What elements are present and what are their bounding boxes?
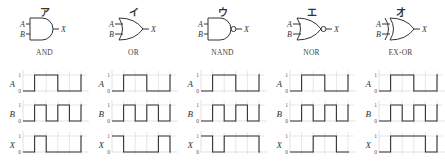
signal-label: A — [187, 79, 194, 89]
signal-label: X — [9, 140, 16, 150]
waveform-trace — [201, 136, 260, 152]
panel-u: ウ ABX NAND 10A10B10X — [178, 0, 267, 167]
tick-label-0: 0 — [18, 149, 21, 155]
waveform-a: 10A — [276, 70, 356, 94]
waveform-trace — [112, 75, 171, 91]
tick-label-0: 0 — [107, 88, 110, 94]
signal-label: X — [187, 140, 194, 150]
waveform-trace — [112, 105, 171, 121]
tick-label-1: 1 — [196, 102, 199, 108]
tick-label-1: 1 — [374, 102, 377, 108]
tick-label-1: 1 — [18, 72, 21, 78]
waveform-x: 10X — [98, 131, 178, 155]
tick-label-0: 0 — [107, 149, 110, 155]
tick-label-0: 0 — [196, 118, 199, 124]
waveform-trace — [379, 136, 438, 152]
waveform-x: 10X — [9, 131, 89, 155]
tick-label-1: 1 — [107, 72, 110, 78]
signal-label: B — [99, 109, 105, 119]
timing-diagram: 10A10B10X — [0, 0, 89, 167]
waveform-a: 10A — [9, 70, 89, 94]
signal-label: B — [10, 109, 16, 119]
signal-label: B — [277, 109, 283, 119]
tick-label-0: 0 — [196, 88, 199, 94]
waveform-b: 10B — [99, 100, 178, 124]
waveform-a: 10A — [365, 70, 445, 94]
signal-label: A — [365, 79, 372, 89]
tick-label-0: 0 — [107, 118, 110, 124]
tick-label-0: 0 — [285, 88, 288, 94]
tick-label-0: 0 — [18, 88, 21, 94]
waveform-x: 10X — [276, 131, 356, 155]
tick-label-1: 1 — [18, 102, 21, 108]
signal-label: B — [188, 109, 194, 119]
signal-label: B — [366, 109, 372, 119]
panel-a: ア ABX AND 10A10B10X — [0, 0, 89, 167]
tick-label-0: 0 — [285, 118, 288, 124]
waveform-trace — [379, 105, 438, 121]
waveform-trace — [23, 105, 82, 121]
panel-o: オ ABX EX-OR 10A10B10X — [356, 0, 445, 167]
tick-label-0: 0 — [196, 149, 199, 155]
waveform-b: 10B — [10, 100, 89, 124]
timing-diagram: 10A10B10X — [178, 0, 267, 167]
tick-label-0: 0 — [374, 149, 377, 155]
waveform-trace — [290, 105, 349, 121]
waveform-a: 10A — [98, 70, 178, 94]
tick-label-1: 1 — [285, 133, 288, 139]
panel-i: イ ABX OR 10A10B10X — [89, 0, 178, 167]
waveform-trace — [379, 75, 438, 91]
tick-label-0: 0 — [18, 118, 21, 124]
waveform-trace — [23, 75, 82, 91]
tick-label-1: 1 — [196, 133, 199, 139]
waveform-b: 10B — [188, 100, 267, 124]
timing-diagram: 10A10B10X — [267, 0, 356, 167]
tick-label-1: 1 — [374, 133, 377, 139]
waveform-trace — [112, 136, 171, 152]
panel-e: エ ABX NOR 10A10B10X — [267, 0, 356, 167]
tick-label-1: 1 — [374, 72, 377, 78]
tick-label-1: 1 — [285, 72, 288, 78]
tick-label-1: 1 — [107, 102, 110, 108]
signal-label: X — [365, 140, 372, 150]
tick-label-0: 0 — [285, 149, 288, 155]
waveform-trace — [201, 105, 260, 121]
waveform-x: 10X — [365, 131, 445, 155]
waveform-x: 10X — [187, 131, 267, 155]
signal-label: X — [276, 140, 283, 150]
waveform-trace — [290, 136, 349, 152]
waveform-trace — [290, 75, 349, 91]
timing-diagram: 10A10B10X — [356, 0, 445, 167]
signal-label: A — [98, 79, 105, 89]
signal-label: X — [98, 140, 105, 150]
waveform-trace — [23, 136, 82, 152]
tick-label-0: 0 — [374, 88, 377, 94]
tick-label-1: 1 — [196, 72, 199, 78]
timing-diagram: 10A10B10X — [89, 0, 178, 167]
waveform-b: 10B — [277, 100, 356, 124]
waveform-a: 10A — [187, 70, 267, 94]
signal-label: A — [9, 79, 16, 89]
tick-label-0: 0 — [374, 118, 377, 124]
tick-label-1: 1 — [285, 102, 288, 108]
waveform-b: 10B — [366, 100, 445, 124]
tick-label-1: 1 — [18, 133, 21, 139]
tick-label-1: 1 — [107, 133, 110, 139]
waveform-trace — [201, 75, 260, 91]
signal-label: A — [276, 79, 283, 89]
